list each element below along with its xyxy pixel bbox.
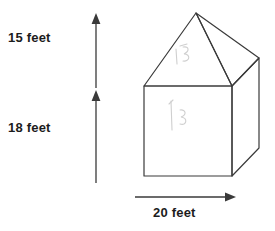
roof-height-arrow (92, 13, 101, 88)
body-front-face (144, 86, 232, 176)
body-height-label: 18 feet (8, 120, 51, 135)
roof-right-plane (196, 13, 259, 86)
dimension-arrows (92, 13, 236, 201)
prism-roof (144, 13, 259, 86)
body-handwritten-18 (169, 100, 186, 130)
handwritten-annotations (169, 44, 189, 130)
roof-height-label: 15 feet (8, 30, 51, 45)
base-width-label: 20 feet (153, 205, 196, 220)
body-height-arrow (92, 90, 101, 183)
base-width-arrow (135, 193, 236, 202)
body-right-face (232, 58, 259, 176)
roof-handwritten-13 (176, 44, 189, 64)
geometry-figure: 15 feet 18 feet 20 feet (0, 0, 275, 231)
